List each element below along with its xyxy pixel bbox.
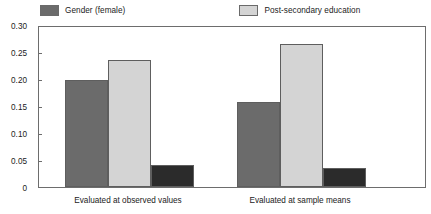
bars-container [39,27,425,187]
legend-label: Gender (female) [65,6,125,16]
plot-area [38,26,426,188]
y-tick-label: 0.25 [11,49,27,58]
bar [65,80,108,187]
chart-legend: Gender (female)Post-secondary educationU… [40,3,425,18]
bar [151,165,194,187]
x-group-label: Evaluated at observed values [74,196,181,205]
y-tick-mark [38,80,42,81]
y-tick-mark [38,134,42,135]
x-group-label: Evaluated at sample means [249,196,350,205]
legend-item[interactable]: Gender (female) [40,5,125,16]
bar-chart: Gender (female)Post-secondary educationU… [0,0,431,214]
y-tick-mark [38,53,42,54]
legend-swatch-1 [40,5,59,16]
y-tick-label: 0.10 [11,130,27,139]
y-tick-label: 0 [22,184,27,193]
bar [108,60,151,187]
bar [237,102,280,187]
y-tick-label: 0.15 [11,103,27,112]
legend-item[interactable]: Post-secondary education [239,5,360,16]
y-axis: 0.300.250.200.150.100.050 [0,26,33,188]
legend-label: Post-secondary education [264,6,360,16]
y-tick-mark [38,161,42,162]
y-tick-label: 0.30 [11,22,27,31]
y-tick-label: 0.20 [11,76,27,85]
legend-swatch-2 [239,5,258,16]
y-tick-label: 0.05 [11,157,27,166]
bar [323,168,366,187]
bar [280,44,323,187]
y-tick-mark [38,107,42,108]
